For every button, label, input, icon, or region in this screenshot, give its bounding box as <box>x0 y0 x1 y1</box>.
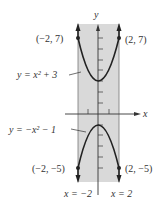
vline-label-2: x = 2 <box>111 189 132 199</box>
point-label-neg2-neg5: (−2, −5) <box>32 164 65 174</box>
point-2-7 <box>117 36 121 40</box>
figure: y x (−2, 7) (2, 7) (−2, −5) (2, −5) y = … <box>0 0 163 207</box>
y-axis-label: y <box>94 10 98 20</box>
point-label-2-neg5: (2, −5) <box>125 164 152 174</box>
x-axis-arrow-icon <box>134 112 141 116</box>
upper-equation-label: y = x² + 3 <box>17 70 57 80</box>
vline-label-neg2: x = −2 <box>64 189 92 199</box>
x-axis-label: x <box>143 109 147 119</box>
graph <box>0 0 163 207</box>
point-neg2-7 <box>76 36 80 40</box>
lower-equation-label: y = −x² − 1 <box>9 125 56 135</box>
point-neg2-neg5 <box>76 166 80 170</box>
point-2-neg5 <box>117 166 121 170</box>
point-label-2-7: (2, 7) <box>125 35 147 45</box>
point-label-neg2-7: (−2, 7) <box>36 34 63 44</box>
